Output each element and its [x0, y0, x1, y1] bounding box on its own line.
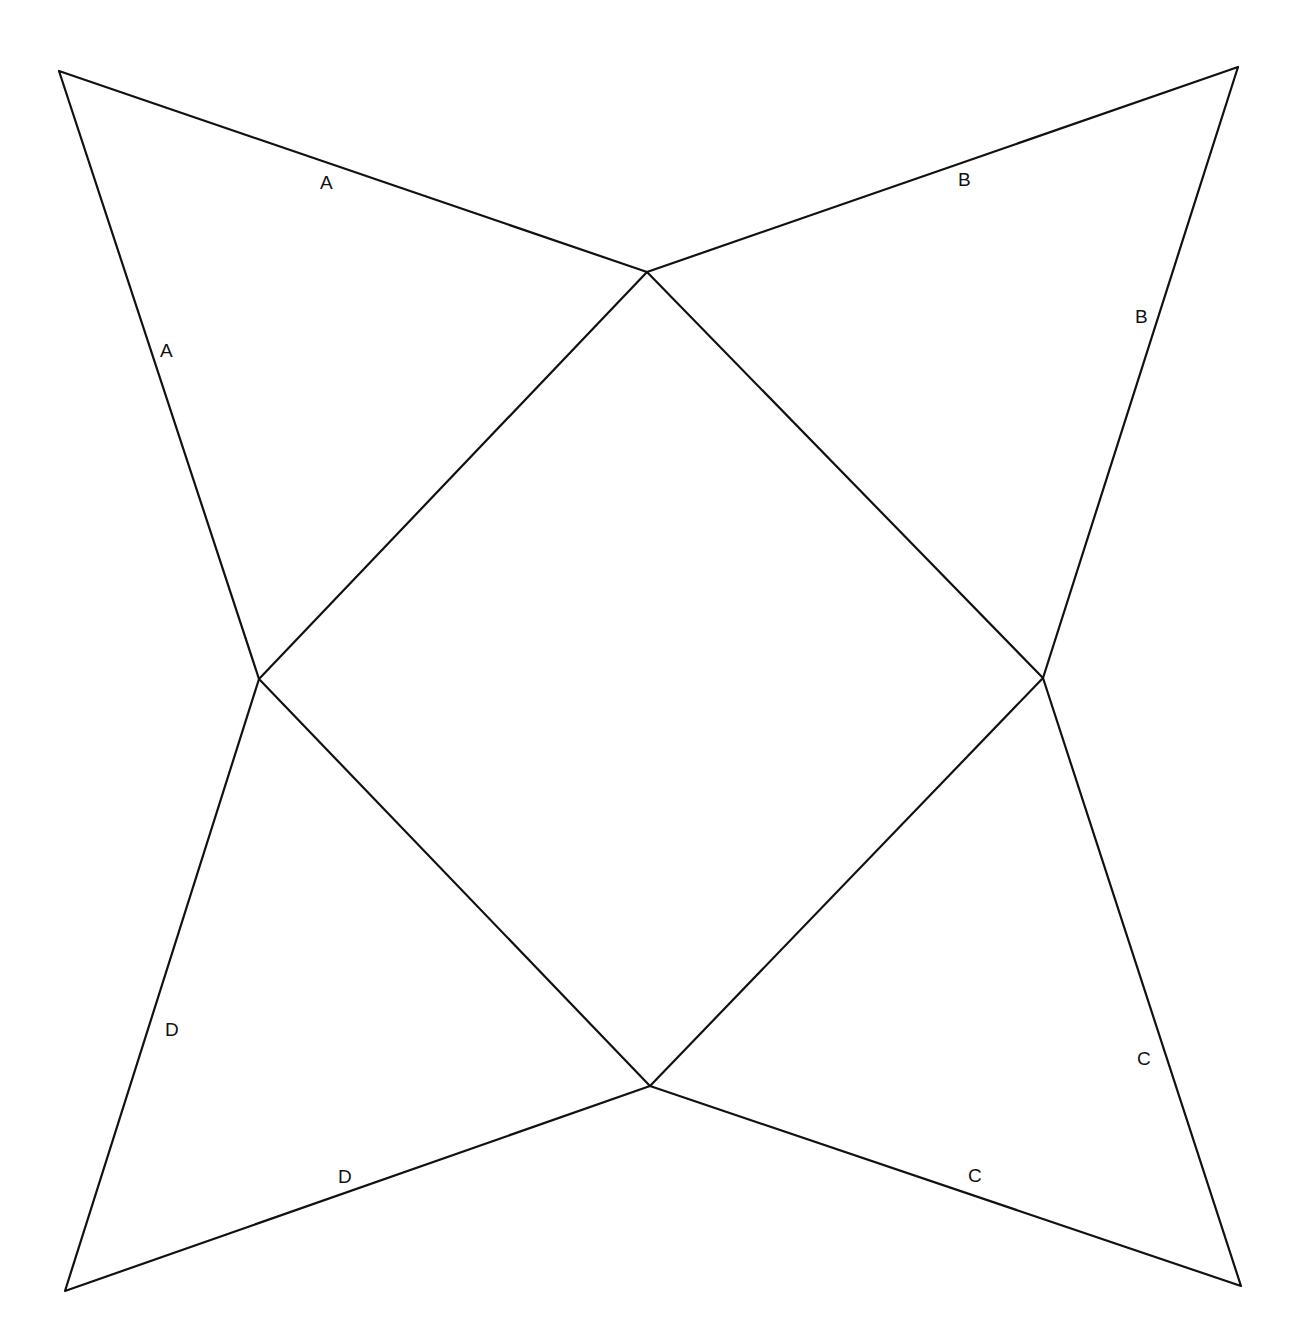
edge-label-a-side: A	[160, 340, 173, 361]
edge-label-b-side: B	[1135, 306, 1148, 327]
triangle-face-a	[59, 71, 647, 679]
base-square	[259, 272, 1043, 1086]
triangle-face-c	[650, 678, 1241, 1286]
triangle-face-d	[65, 679, 650, 1291]
edge-label-d-side: D	[165, 1019, 179, 1040]
edge-label-d-bottom: D	[338, 1166, 352, 1187]
edge-label-b-top: B	[958, 169, 971, 190]
pyramid-net-diagram: A A B B C C D D	[0, 0, 1307, 1341]
edge-label-c-side: C	[1137, 1048, 1151, 1069]
edge-label-c-bottom: C	[968, 1165, 982, 1186]
edge-label-a-top: A	[320, 172, 333, 193]
triangle-face-b	[647, 67, 1238, 678]
